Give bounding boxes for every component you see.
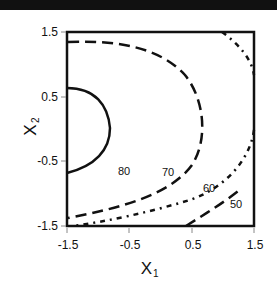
x-tick-label: 1.5 (247, 238, 264, 252)
svg-text:2: 2 (30, 117, 41, 123)
contour-80 (67, 88, 110, 173)
svg-text:X: X (21, 124, 40, 135)
contour-label-70: 70 (162, 166, 174, 178)
x-tick-label: -1.5 (58, 238, 79, 252)
contour-label-80: 80 (118, 165, 130, 177)
contour-label-50: 50 (230, 198, 242, 210)
y-tick-label: 1.5 (41, 25, 58, 39)
plot-frame (67, 32, 254, 226)
svg-text:X: X (141, 259, 152, 278)
contour-60 (72, 32, 254, 226)
contour-plot: 1.5 0.5 -0.5 -1.5 -1.5 -0.5 0.5 1.5 X 1 … (0, 0, 277, 293)
x-axis-label: X 1 (141, 259, 159, 279)
y-tick-label: -1.5 (37, 219, 58, 233)
y-axis-label: X 2 (21, 117, 41, 136)
svg-text:1: 1 (153, 268, 159, 279)
x-tick-label: -0.5 (120, 238, 141, 252)
contour-70 (68, 42, 202, 218)
tick-marks (61, 32, 254, 233)
y-tick-label: -0.5 (37, 154, 58, 168)
contour-label-60: 60 (203, 182, 215, 194)
y-tick-label: 0.5 (41, 90, 58, 104)
x-tick-label: 0.5 (185, 238, 202, 252)
